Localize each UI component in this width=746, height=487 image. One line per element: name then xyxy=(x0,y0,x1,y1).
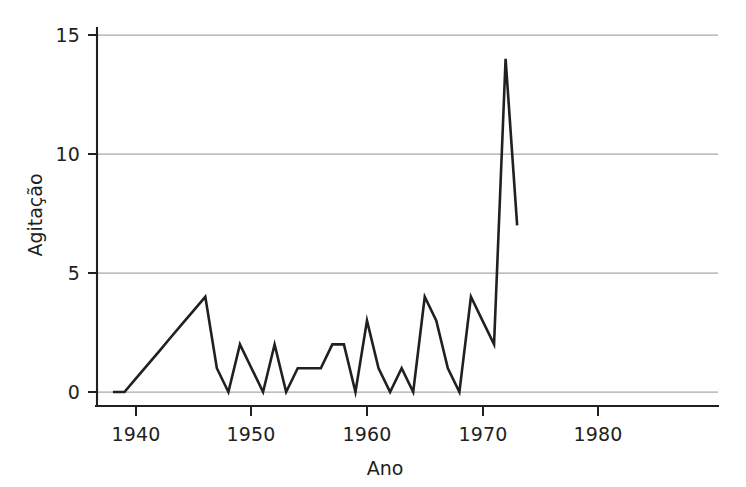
y-tick-label-5: 5 xyxy=(68,262,80,284)
y-tick-marks xyxy=(88,35,97,392)
agitacao-series-line xyxy=(113,59,517,392)
y-axis-title: Agitação xyxy=(24,173,46,256)
y-tick-labels: 15 10 5 0 xyxy=(55,24,80,403)
x-tick-label-1970: 1970 xyxy=(458,423,507,445)
x-tick-label-1980: 1980 xyxy=(573,423,622,445)
y-tick-label-15: 15 xyxy=(55,24,80,46)
x-tick-marks xyxy=(136,406,598,416)
x-tick-labels: 1940 1950 1960 1970 1980 xyxy=(111,423,622,445)
x-tick-label-1940: 1940 xyxy=(111,423,160,445)
y-tick-label-0: 0 xyxy=(68,381,80,403)
chart-figure: 15 10 5 0 1940 1950 1960 1970 1980 Ano A… xyxy=(0,0,746,487)
x-axis-title: Ano xyxy=(367,457,404,479)
y-tick-label-10: 10 xyxy=(55,143,80,165)
axis-spines xyxy=(96,28,718,406)
x-tick-label-1960: 1960 xyxy=(342,423,391,445)
line-chart-canvas: 15 10 5 0 1940 1950 1960 1970 1980 Ano A… xyxy=(0,0,746,487)
gridlines xyxy=(97,35,718,392)
x-tick-label-1950: 1950 xyxy=(226,423,275,445)
